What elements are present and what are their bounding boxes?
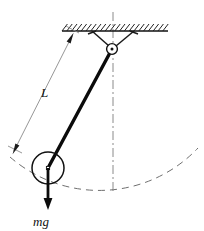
length-dimension-arrow-top [67, 33, 74, 44]
swing-path-arc [10, 148, 198, 190]
weight-label: mg [33, 214, 49, 229]
pivot-center-dot [111, 48, 114, 51]
ceiling-hatching [62, 24, 168, 31]
pendulum-figure: L mg [0, 0, 204, 231]
length-label: L [40, 85, 48, 100]
pendulum-diagram-canvas: L mg [0, 0, 204, 231]
pivot-joint [107, 44, 118, 55]
weight-force-arrow [44, 168, 53, 210]
pivot-bracket-left-leg [92, 31, 109, 46]
pendulum-rod [48, 49, 112, 168]
weight-arrow-head [44, 198, 53, 210]
length-dimension: L [8, 26, 79, 154]
pivot-bracket-right-leg [116, 31, 134, 46]
ceiling-support [62, 24, 168, 31]
